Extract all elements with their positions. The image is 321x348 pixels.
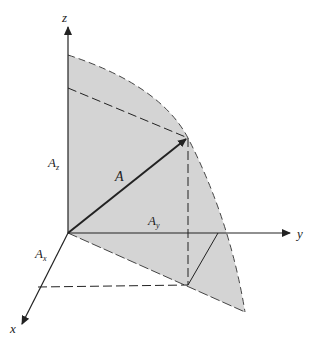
vector-a-label: A: [114, 169, 124, 184]
y-axis-label: y: [295, 226, 303, 241]
az-label: Az: [47, 155, 60, 172]
shaded-plane: [68, 55, 245, 312]
x-axis: [22, 233, 68, 324]
x-projection-line: [38, 285, 188, 287]
x-axis-label: x: [9, 321, 16, 336]
ax-label: Ax: [34, 246, 47, 263]
z-axis-label: z: [61, 10, 67, 25]
vector-component-diagram: z y x A Az Ay Ax: [0, 0, 321, 348]
